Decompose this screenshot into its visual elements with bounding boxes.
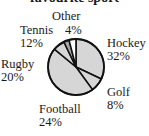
pie-label-rugby-value: 20% (1, 71, 34, 84)
pie-label-golf-value: 8% (107, 99, 130, 112)
pie-label-hockey: Hockey 32% (107, 37, 146, 63)
pie-label-other: Other 4% (52, 10, 80, 23)
pie-label-hockey-value: 32% (107, 50, 146, 63)
pie-label-other-value: 4% (65, 24, 82, 37)
pie-label-rugby-name: Rugby (1, 57, 34, 71)
pie-label-tennis-name: Tennis (20, 23, 53, 37)
pie-label-tennis: Tennis 12% (20, 24, 53, 50)
pie-label-golf-name: Golf (107, 85, 130, 99)
pie-label-other-name: Other (52, 10, 80, 23)
pie-label-football-value: 24% (39, 116, 81, 129)
pie-label-hockey-name: Hockey (107, 36, 146, 50)
pie-label-football: Football 24% (39, 103, 81, 129)
pie-label-golf: Golf 8% (107, 86, 130, 112)
pie-label-football-name: Football (39, 102, 81, 116)
pie-label-tennis-value: 12% (20, 37, 53, 50)
pie-chart-figure: favourite sport Other 4% Tennis 12% Rugb… (0, 0, 149, 136)
pie-label-rugby: Rugby 20% (1, 58, 34, 84)
